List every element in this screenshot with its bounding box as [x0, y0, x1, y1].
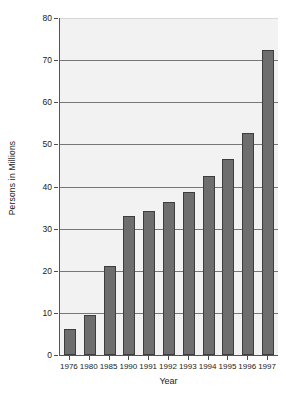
plot-area — [59, 18, 278, 356]
y-axis-tick-labels: 01020304050607080 — [22, 0, 52, 397]
y-axis-tick-label: 70 — [26, 56, 52, 65]
x-axis-tick-mark — [227, 356, 228, 360]
y-axis-title-label: Persons in Millions — [7, 140, 17, 215]
y-axis-tick-mark — [54, 313, 58, 314]
y-axis-tick-mark — [54, 187, 58, 188]
x-axis-title: Year — [59, 376, 278, 386]
y-axis-tick-mark — [54, 355, 58, 356]
x-axis-tick-mark — [208, 356, 209, 360]
bar — [163, 202, 175, 355]
bar-chart-figure: Persons in Millions 01020304050607080 19… — [0, 0, 286, 397]
x-axis-tick-label: 1997 — [254, 361, 280, 373]
y-axis-tick-mark — [54, 271, 58, 272]
bar — [143, 211, 155, 355]
bars-container — [60, 18, 278, 355]
x-axis-tick-mark — [69, 356, 70, 360]
y-axis-tick-label: 30 — [26, 224, 52, 233]
bar — [183, 192, 195, 355]
x-axis-tick-mark — [267, 356, 268, 360]
x-axis-tick-labels: 1976198019851990199119921993199419951996… — [59, 361, 278, 375]
y-axis-tick-mark — [54, 18, 58, 19]
y-axis-tick-mark — [54, 102, 58, 103]
bar — [64, 329, 76, 355]
bar — [104, 266, 116, 355]
y-axis-tick-label: 0 — [26, 351, 52, 360]
y-axis-tick-label: 80 — [26, 14, 52, 23]
y-axis-tick-label: 10 — [26, 309, 52, 318]
y-axis-tick-label: 50 — [26, 140, 52, 149]
y-axis-tick-mark — [54, 229, 58, 230]
bar — [84, 315, 96, 355]
bar — [242, 133, 254, 355]
y-axis-tick-mark — [54, 144, 58, 145]
x-axis-tick-mark — [128, 356, 129, 360]
y-axis-tick-label: 40 — [26, 182, 52, 191]
bar — [222, 159, 234, 355]
x-axis-tick-mark — [109, 356, 110, 360]
y-axis-tick-label: 20 — [26, 267, 52, 276]
y-axis-title: Persons in Millions — [0, 0, 24, 355]
y-axis-tick-mark — [54, 60, 58, 61]
y-axis-tick-label: 60 — [26, 98, 52, 107]
x-axis-tick-mark — [188, 356, 189, 360]
x-axis-tick-mark — [247, 356, 248, 360]
bar — [262, 50, 274, 355]
x-axis-tick-mark — [168, 356, 169, 360]
x-axis-tick-mark — [148, 356, 149, 360]
bar — [123, 216, 135, 355]
bar — [203, 176, 215, 355]
x-axis-tick-mark — [89, 356, 90, 360]
